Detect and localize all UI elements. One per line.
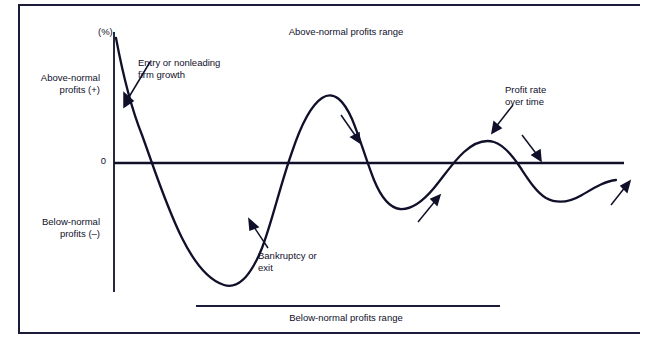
below-normal-profits-label: Below-normal profits (–) (22, 216, 100, 240)
arrow-trough2-line (418, 200, 436, 222)
arrow-bankruptcy-head (249, 219, 258, 230)
annotation-profit-rate-label: Profit rate over time (505, 84, 546, 108)
y-axis-unit-label: (%) (98, 26, 113, 38)
figure-container: (%) Above-normal profits range Below-nor… (0, 0, 645, 349)
profit-rate-chart (0, 0, 645, 349)
arrow-peak1-head (351, 133, 360, 143)
annotation-bankruptcy-label: Bankruptcy or exit (258, 250, 317, 274)
arrow-profit-rate-head (492, 122, 501, 133)
zero-tick-label: 0 (92, 155, 106, 167)
annotation-entry-label: Entry or nonleading firm growth (138, 57, 220, 81)
above-normal-range-label: Above-normal profits range (246, 26, 446, 38)
arrow-peak2-head (532, 150, 541, 161)
above-normal-profits-label: Above-normal profits (+) (22, 72, 100, 96)
below-normal-range-label: Below-normal profits range (246, 312, 446, 324)
annotation-arrows (124, 62, 630, 248)
